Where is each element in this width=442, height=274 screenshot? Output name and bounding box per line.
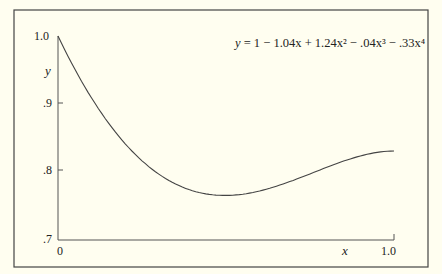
y-tick-label-07: .7 — [43, 232, 52, 246]
x-axis-label: x — [341, 243, 348, 258]
equation: y = 1 − 1.04x + 1.24x² − .04x³ − .33x⁴ — [233, 36, 425, 50]
y-tick-label-08: .8 — [43, 163, 52, 177]
curve-line — [58, 36, 394, 195]
chart: 1.0 y .9 .8 .7 0 x 1.0 y = 1 − 1.04x + 1… — [0, 0, 442, 274]
y-axis-label: y — [43, 63, 51, 78]
y-tick-label-1: 1.0 — [34, 29, 49, 43]
x-tick-label-1: 1.0 — [381, 244, 396, 258]
y-tick-label-09: .9 — [43, 96, 52, 110]
x-tick-label-0: 0 — [57, 244, 63, 258]
